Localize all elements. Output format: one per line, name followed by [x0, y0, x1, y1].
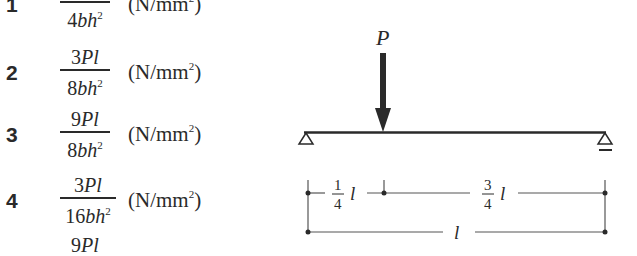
- svg-text:1: 1: [334, 177, 342, 193]
- load-label: P: [375, 25, 389, 50]
- load-arrow-icon: [375, 53, 391, 132]
- svg-text:4: 4: [334, 196, 342, 212]
- span-label: l: [454, 222, 459, 243]
- svg-text:3: 3: [484, 177, 492, 193]
- left-segment-label: 1 4 l: [332, 177, 355, 212]
- svg-text:l: l: [350, 183, 355, 204]
- right-segment-label: 3 4 l: [482, 177, 505, 212]
- svg-text:l: l: [500, 183, 505, 204]
- svg-text:4: 4: [484, 196, 492, 212]
- roller-support-icon: [598, 133, 612, 150]
- pin-support-icon: [299, 133, 313, 144]
